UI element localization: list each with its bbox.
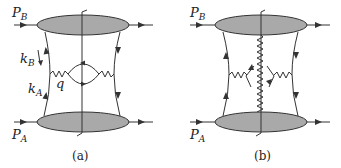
cut-tick-top bbox=[82, 10, 87, 12]
caption-a: (a) bbox=[72, 149, 89, 163]
caption-b: (b) bbox=[254, 149, 271, 163]
label-PB: PB bbox=[11, 5, 28, 22]
fermion-line bbox=[267, 66, 274, 76]
arrow-icon bbox=[315, 22, 322, 28]
arrow-icon bbox=[196, 22, 203, 28]
arrow-icon bbox=[315, 119, 322, 125]
arrow-icon bbox=[196, 119, 203, 125]
photon-line-vertical bbox=[257, 34, 263, 115]
feynman-diagrams: PB PA kB kA q (a) bbox=[0, 0, 341, 168]
arrow-icon bbox=[293, 52, 299, 59]
diagram-b: PB PA (b) bbox=[189, 5, 330, 163]
label-kB: kB bbox=[20, 51, 35, 68]
arrow-icon bbox=[138, 22, 145, 28]
photon-line-right bbox=[99, 71, 114, 77]
quark-line-left bbox=[223, 32, 229, 116]
arrow-icon bbox=[20, 22, 27, 28]
blob-bottom bbox=[37, 112, 129, 132]
label-PB: PB bbox=[189, 5, 206, 22]
quark-line-right bbox=[114, 32, 120, 116]
cut-tick-bottom bbox=[77, 133, 82, 136]
label-PA: PA bbox=[189, 127, 206, 144]
fermion-line bbox=[246, 76, 251, 87]
fermion-loop bbox=[68, 64, 99, 84]
arrow-icon bbox=[38, 60, 43, 66]
arrow-icon bbox=[20, 119, 27, 125]
quark-line-left bbox=[44, 32, 50, 116]
label-PA: PA bbox=[11, 127, 28, 144]
cut-tick-top bbox=[261, 10, 265, 12]
arrow-icon bbox=[138, 119, 145, 125]
label-kA: kA bbox=[28, 81, 43, 98]
diagram-a: PB PA kB kA q (a) bbox=[11, 5, 153, 163]
cut-tick-bottom bbox=[256, 133, 261, 136]
photon-line-left bbox=[229, 72, 247, 78]
photon-line-right bbox=[274, 72, 292, 78]
quark-line-right bbox=[292, 32, 298, 116]
label-q: q bbox=[56, 76, 64, 91]
blob-top bbox=[37, 15, 129, 35]
